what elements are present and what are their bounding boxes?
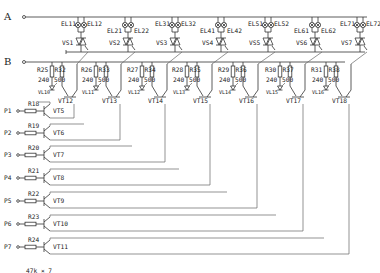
lamp-label: EL12	[87, 20, 102, 27]
triac-icon	[170, 38, 180, 45]
resistor-label: R37	[283, 66, 294, 73]
transistor-label: VT7	[53, 151, 64, 158]
schematic-drawing: A B EL11EL12VS1EL21EL22VS2EL31EL32VS3EL4…	[0, 0, 380, 273]
resistor-value: 500	[235, 76, 246, 83]
triac-icon	[263, 38, 273, 45]
resistor-label: R32	[55, 66, 66, 73]
lamp-label: EL71	[340, 20, 355, 27]
led-icon	[185, 86, 190, 90]
resistor-label: R22	[28, 190, 39, 197]
resistor-value: 500	[189, 76, 200, 83]
transistor-label: VT11	[53, 243, 68, 250]
lamp-label: EL21	[107, 27, 122, 34]
triac-label: VS5	[249, 39, 260, 46]
input-terminal[interactable]	[17, 154, 20, 157]
lamp-triac-group: EL11EL12VS1	[61, 17, 102, 52]
lamp-label: EL62	[321, 27, 336, 34]
transistor-label: VT17	[286, 97, 301, 104]
led-icon	[94, 86, 99, 90]
resistor-label: R20	[28, 144, 39, 151]
resistor-label: R23	[28, 213, 39, 220]
lamp-label: EL41	[200, 27, 215, 34]
input-terminal[interactable]	[17, 223, 20, 226]
transistor-label: VT15	[193, 97, 208, 104]
lamp-label: EL31	[155, 20, 170, 27]
port-label: P6	[4, 220, 12, 227]
port-label: P5	[4, 197, 12, 204]
input-terminal[interactable]	[17, 177, 20, 180]
port-label: P4	[4, 174, 12, 181]
lamp-label: EL22	[134, 27, 149, 34]
input-stage: P7R24VT11	[4, 236, 68, 254]
lamp-triac-group: EL61EL62VS6	[294, 17, 336, 52]
circuit-schematic: A B EL11EL12VS1EL21EL22VS2EL31EL32VS3EL4…	[0, 0, 380, 273]
input-resistor-value: 47k × 7	[26, 267, 52, 273]
return-wire	[50, 104, 165, 162]
transistor-label: VT9	[53, 197, 64, 204]
lamp-label: EL52	[274, 20, 289, 27]
lamp-triac-group: EL41EL42VS4	[200, 17, 242, 52]
resistor-label: R24	[28, 236, 39, 243]
resistor-label: R30	[265, 66, 276, 73]
resistor-value: 240	[219, 76, 230, 83]
input-terminal[interactable]	[17, 110, 20, 113]
triac-icon	[355, 38, 365, 45]
led-label: VL14	[219, 89, 231, 95]
driver-stage: R31240R38500VL16VT18	[311, 52, 367, 104]
driver-stage: R26240R33500VL11VT13	[81, 52, 135, 104]
input-stage: P6R23VT10	[4, 213, 68, 231]
resistor-value: 240	[128, 76, 139, 83]
led-label: VL10	[38, 89, 50, 95]
input-stage: P5R22VT9	[4, 190, 64, 208]
triac-label: VS6	[296, 39, 307, 46]
transistor-label: VT12	[58, 97, 73, 104]
triac-label: VS7	[341, 39, 352, 46]
input-terminal[interactable]	[17, 200, 20, 203]
input-stage: P4R21VT8	[4, 167, 64, 185]
resistor-icon	[25, 153, 36, 157]
return-wire	[50, 104, 303, 231]
lamp-label: EL32	[181, 20, 196, 27]
lamp-triac-group: EL71EL72VS7	[340, 17, 380, 52]
input-terminal[interactable]	[17, 132, 20, 135]
lamp-triac-group: EL51EL52VS5	[248, 17, 289, 52]
triac-label: VS1	[62, 39, 73, 46]
led-label: VL11	[82, 89, 94, 95]
terminal-a	[23, 16, 26, 19]
resistor-value: 240	[82, 76, 93, 83]
resistor-value: 240	[266, 76, 277, 83]
port-label: P2	[4, 129, 12, 136]
resistor-icon	[25, 245, 36, 249]
input-stage: P1R18VT5	[4, 100, 64, 118]
transistor-label: VT5	[53, 107, 64, 114]
transistor-label: VT6	[53, 129, 64, 136]
resistor-value: 500	[98, 76, 109, 83]
return-wire	[50, 104, 257, 208]
resistor-label: R21	[28, 167, 39, 174]
resistor-label: R36	[236, 66, 247, 73]
led-label: VL12	[128, 89, 140, 95]
resistor-value: 240	[312, 76, 323, 83]
triac-icon	[76, 38, 86, 45]
triac-label: VS2	[109, 39, 120, 46]
input-terminal[interactable]	[17, 246, 20, 249]
led-label: VL15	[266, 89, 278, 95]
resistor-value: 500	[328, 76, 339, 83]
resistor-label: R28	[172, 66, 183, 73]
resistor-label: R31	[311, 66, 322, 73]
led-label: VL16	[312, 89, 324, 95]
lamp-label: EL11	[61, 20, 76, 27]
port-label: P3	[4, 151, 12, 158]
triac-icon	[123, 38, 133, 45]
lamp-triac-group: EL31EL32VS3	[155, 17, 196, 52]
transistor-label: VT8	[53, 174, 64, 181]
resistor-label: R25	[37, 66, 48, 73]
resistor-icon	[25, 131, 36, 135]
resistor-label: R38	[329, 66, 340, 73]
led-icon	[140, 86, 145, 90]
triac-icon	[310, 38, 320, 45]
resistor-value: 500	[144, 76, 155, 83]
transistor-label: VT16	[239, 97, 254, 104]
resistor-icon	[25, 199, 36, 203]
resistor-value: 240	[173, 76, 184, 83]
